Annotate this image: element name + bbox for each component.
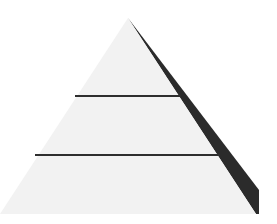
- pyramid-front-face: [0, 18, 256, 214]
- pyramid-diagram: [0, 0, 277, 224]
